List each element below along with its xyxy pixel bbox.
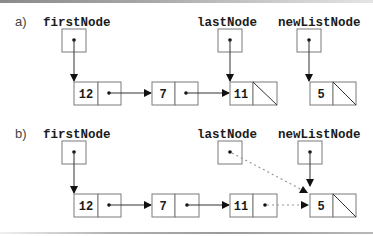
- list-node-12-b: 12: [74, 194, 151, 217]
- firstnode-label-a: firstNode: [43, 16, 111, 30]
- firstnode-box-a: [62, 29, 86, 81]
- newlistnode-box-a: [297, 29, 321, 81]
- node-value: 5: [317, 88, 324, 102]
- node-value: 11: [234, 200, 248, 214]
- linked-list-diagram: a) firstNode lastNode newListNode: [0, 0, 373, 236]
- list-node-11-a: 11: [230, 82, 277, 105]
- lastnode-label-b: lastNode: [197, 128, 257, 142]
- node-value: 12: [79, 88, 93, 102]
- pointer-dot: [263, 203, 267, 207]
- diagram-canvas: a) firstNode lastNode newListNode: [0, 0, 373, 236]
- lastnode-box-b: [218, 141, 308, 193]
- arrowhead: [299, 186, 308, 193]
- node-value: 7: [159, 88, 166, 102]
- pointer-dot: [228, 150, 232, 154]
- newlistnode-label-a: newListNode: [278, 16, 361, 30]
- node-value: 11: [234, 88, 248, 102]
- node-value: 5: [317, 200, 324, 214]
- firstnode-label-b: firstNode: [43, 128, 111, 142]
- list-node-7-b: 7: [152, 194, 229, 217]
- panel-a: a) firstNode lastNode newListNode: [15, 14, 361, 105]
- panel-a-label: a): [15, 14, 27, 29]
- newlistnode-label-b: newListNode: [278, 128, 361, 142]
- arrowhead: [301, 201, 309, 209]
- firstnode-box-b: [62, 141, 86, 193]
- list-node-11-b: 11: [230, 194, 309, 217]
- lastnode-label-a: lastNode: [197, 16, 257, 30]
- panel-b-label: b): [15, 126, 27, 141]
- newlistnode-box-b: [298, 141, 322, 186]
- list-node-5-a: 5: [310, 82, 356, 105]
- dotted-arrow-lastnode-to-5: [232, 153, 306, 192]
- node-value: 12: [79, 200, 93, 214]
- bottom-border: [0, 232, 373, 234]
- list-node-5-b: 5: [310, 194, 356, 217]
- panel-b: b) firstNode lastNode newListNode: [15, 126, 361, 217]
- lastnode-box-a: [218, 29, 242, 81]
- list-node-7-a: 7: [152, 82, 229, 105]
- list-node-12-a: 12: [74, 82, 151, 105]
- node-value: 7: [159, 200, 166, 214]
